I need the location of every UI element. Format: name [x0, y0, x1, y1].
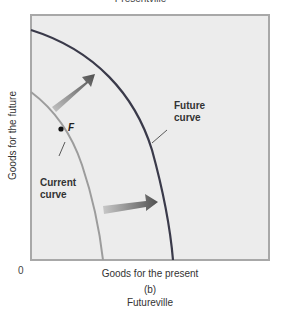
future-curve-label-line1: Future: [174, 100, 205, 112]
x-axis-label: Goods for the present: [31, 268, 269, 279]
panel-label: (b): [31, 284, 269, 295]
current-curve-label: Current curve: [40, 177, 76, 201]
point-f-label: F: [68, 122, 74, 133]
plot-area: [31, 15, 269, 260]
future-curve-label-line2: curve: [174, 112, 205, 124]
current-curve-label-line2: curve: [40, 189, 76, 201]
y-axis-label: Goods for the future: [7, 76, 18, 196]
current-curve-label-line1: Current: [40, 177, 76, 189]
future-curve-label: Future curve: [174, 100, 205, 124]
point-f-marker: [58, 126, 63, 131]
figure-caption: Futureville: [31, 297, 269, 308]
origin-label: 0: [18, 265, 24, 276]
